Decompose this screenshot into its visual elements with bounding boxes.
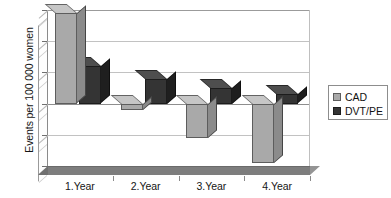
wall-line-0 <box>39 113 47 121</box>
bar-side-face <box>167 71 176 104</box>
wall-line-10 <box>39 50 47 58</box>
x-tick-label-2-Year: 2.Year <box>118 181 174 192</box>
legend-swatch-cad-icon <box>333 93 341 101</box>
x-tick-label-1-Year: 1.Year <box>52 181 108 192</box>
bar-top-face <box>134 70 166 79</box>
bar-side-face <box>77 5 86 103</box>
bar-top-face <box>110 95 142 104</box>
x-tick-mark-1 <box>113 176 114 181</box>
legend-label-dvtpe: DVT/PE <box>345 106 383 117</box>
y-tick-mark--10 <box>42 166 47 167</box>
bar-side-face <box>232 80 241 103</box>
floor-right-corner <box>310 166 320 175</box>
y-tick-mark-5 <box>42 72 47 73</box>
x-tick-label-3-Year: 3.Year <box>183 181 239 192</box>
x-tick-mark-2 <box>179 176 180 181</box>
gridline-10 <box>48 41 309 42</box>
x-tick-label-4-Year: 4.Year <box>249 181 305 192</box>
legend-label-cad: CAD <box>345 92 367 103</box>
y-tick-mark-15 <box>42 10 47 11</box>
legend-item-dvtpe: DVT/PE <box>333 104 387 118</box>
gridline-depth-15 <box>39 10 49 19</box>
bar-top-face <box>200 79 232 88</box>
bar-side-face <box>101 58 110 103</box>
bar-front-face <box>55 13 77 103</box>
bar-chart: Events per 100 000 women 151050-5-10 1.Y… <box>0 0 391 198</box>
wall-line--10 <box>39 175 47 183</box>
x-tick-mark-4 <box>310 176 311 181</box>
wall-line-15 <box>39 19 47 27</box>
bar-front-face <box>121 104 143 110</box>
bar-top-face <box>176 95 208 104</box>
bar-cad-4-Year <box>252 104 274 163</box>
bar-top-face <box>242 95 274 104</box>
bar-top-face <box>266 85 298 94</box>
bar-side-face <box>298 86 307 103</box>
bar-front-face <box>252 104 274 163</box>
legend-item-cad: CAD <box>333 90 387 104</box>
plot-area <box>47 10 310 166</box>
bar-front-face <box>186 104 208 138</box>
chart-legend: CAD DVT/PE <box>328 85 388 120</box>
bar-side-face <box>274 96 283 163</box>
y-tick-mark-0 <box>42 104 47 105</box>
y-tick-mark-10 <box>42 41 47 42</box>
floor-slab <box>47 166 310 175</box>
plot-wrapper: 151050-5-10 1.Year2.Year3.Year4.Year <box>0 0 330 198</box>
bar-cad-3-Year <box>186 104 208 138</box>
legend-swatch-dvtpe-icon <box>333 107 341 115</box>
y-tick-mark--5 <box>42 135 47 136</box>
bar-cad-1-Year <box>55 13 77 103</box>
gridline-15 <box>48 10 309 11</box>
bar-side-face <box>208 96 217 138</box>
wall-line--5 <box>39 144 47 152</box>
wall-line-5 <box>39 81 47 89</box>
bar-cad-2-Year <box>121 104 143 110</box>
x-tick-mark-3 <box>244 176 245 181</box>
bar-top-face <box>45 4 77 13</box>
